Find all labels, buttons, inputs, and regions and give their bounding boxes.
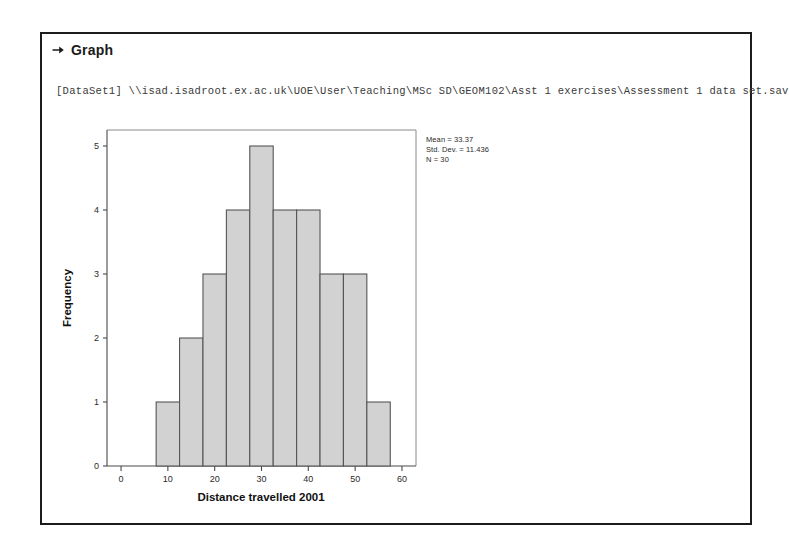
y-tick-label: 3 bbox=[94, 269, 99, 279]
histogram-svg: 012345 0102030405060 Distance travelled … bbox=[42, 34, 754, 527]
statistics-annotation: Mean = 33.37 Std. Dev. = 11.436 N = 30 bbox=[426, 135, 489, 165]
y-axis: 012345 bbox=[94, 141, 107, 471]
y-tick-label: 4 bbox=[94, 205, 99, 215]
x-axis-title: Distance travelled 2001 bbox=[197, 491, 325, 503]
x-tick-label: 20 bbox=[210, 474, 220, 484]
histogram-bar bbox=[250, 146, 273, 466]
x-tick-label: 0 bbox=[119, 474, 124, 484]
histogram-bar bbox=[156, 402, 179, 466]
spss-output-frame: Graph [DataSet1] \\isad.isadroot.ex.ac.u… bbox=[40, 32, 752, 525]
x-axis: 0102030405060 bbox=[119, 466, 407, 484]
histogram-bar bbox=[226, 210, 249, 466]
y-tick-label: 0 bbox=[94, 461, 99, 471]
stat-mean: Mean = 33.37 bbox=[426, 135, 489, 145]
histogram-bar bbox=[180, 338, 203, 466]
stat-std-dev: Std. Dev. = 11.436 bbox=[426, 145, 489, 155]
histogram-bar bbox=[273, 210, 296, 466]
stat-n: N = 30 bbox=[426, 155, 489, 165]
y-tick-label: 1 bbox=[94, 397, 99, 407]
x-tick-label: 50 bbox=[350, 474, 360, 484]
histogram-bar bbox=[343, 274, 366, 466]
histogram-bar bbox=[297, 210, 320, 466]
x-tick-label: 30 bbox=[256, 474, 266, 484]
x-tick-label: 60 bbox=[397, 474, 407, 484]
histogram-bar bbox=[320, 274, 343, 466]
histogram-bar bbox=[203, 274, 226, 466]
histogram-bar bbox=[367, 402, 390, 466]
x-tick-label: 10 bbox=[163, 474, 173, 484]
y-axis-title: Frequency bbox=[61, 268, 73, 327]
y-tick-label: 2 bbox=[94, 333, 99, 343]
histogram-chart: 012345 0102030405060 Distance travelled … bbox=[42, 34, 754, 527]
x-tick-label: 40 bbox=[303, 474, 313, 484]
y-tick-label: 5 bbox=[94, 141, 99, 151]
histogram-bars bbox=[156, 146, 390, 466]
